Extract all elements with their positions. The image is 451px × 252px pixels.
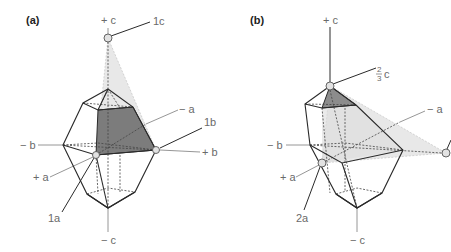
- label-2-3c-denominator: 3: [377, 74, 382, 83]
- intercept-2-3c-point: [326, 82, 334, 90]
- hidden-edge: [336, 188, 382, 194]
- label-1a: 1a: [48, 212, 61, 224]
- intercept-2a-point: [318, 159, 326, 167]
- intercept-1b-point: [153, 147, 160, 154]
- panel-b-label: (b): [250, 14, 264, 26]
- leader-2a: [304, 167, 320, 210]
- label-plus-c: + c: [101, 14, 116, 26]
- plus-a-axis: [50, 157, 93, 177]
- panel-a-label: (a): [26, 14, 40, 26]
- minus-a-axis: [146, 110, 178, 124]
- leader-1b: [160, 128, 202, 148]
- intercept-1a-point: [93, 152, 100, 159]
- label-plus-a: + a: [280, 171, 296, 183]
- label-minus-c: − c: [350, 234, 365, 246]
- label-minus-a: − a: [179, 103, 195, 115]
- leader-1c: [111, 22, 150, 36]
- label-plus-c: + c: [323, 14, 338, 26]
- label-minus-b: − b: [20, 139, 36, 151]
- crystal-edge: [336, 193, 382, 208]
- panel-b: (b): [250, 14, 451, 246]
- hidden-edge: [87, 188, 135, 194]
- label-minus-a: − a: [427, 103, 443, 115]
- leader-2-3c: [333, 68, 376, 84]
- crystal-edge: [87, 192, 135, 208]
- label-2-3c-symbol: c: [384, 68, 390, 80]
- label-plus-a: + a: [33, 171, 49, 183]
- leader-1a: [62, 158, 94, 212]
- intercept-1c-point: [104, 34, 112, 42]
- crystal-axes-figure: (a): [0, 0, 451, 252]
- panel-a: (a): [20, 14, 218, 246]
- leader-b-intercept: [447, 140, 451, 149]
- label-minus-b: − b: [267, 139, 283, 151]
- label-minus-c: − c: [101, 234, 116, 246]
- crystal-edge: [342, 163, 357, 208]
- plus-a-axis: [296, 165, 319, 177]
- label-2a: 2a: [296, 212, 309, 224]
- label-1b: 1b: [204, 116, 216, 128]
- label-plus-b: + b: [202, 146, 218, 158]
- crystal-edge: [96, 155, 108, 208]
- minus-a-axis: [400, 111, 425, 122]
- label-1c: 1c: [153, 15, 165, 27]
- label-2-3c-numerator: 2: [377, 65, 382, 74]
- intercept-b-point: [442, 149, 450, 157]
- plus-b-axis: [160, 150, 200, 152]
